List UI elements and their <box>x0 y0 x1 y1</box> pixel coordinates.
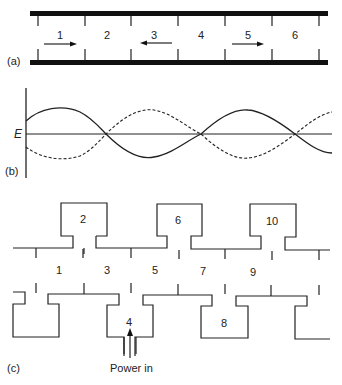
top-conductor-bar <box>30 11 328 16</box>
panel-b: E (b) <box>5 88 332 178</box>
panel-a: 1 2 3 4 5 6 (a) <box>7 11 328 67</box>
panel-label-c: (c) <box>7 362 20 374</box>
cell-label-1: 1 <box>57 29 63 41</box>
panel-label-a: (a) <box>7 55 20 67</box>
gap-label-9: 9 <box>250 266 256 278</box>
cell-dividers <box>38 16 319 60</box>
cell-label-3: 3 <box>151 29 157 41</box>
upper-gap-stubs <box>36 248 319 260</box>
cavity-label-8: 8 <box>221 317 227 329</box>
cavity-label-4: 4 <box>126 316 132 328</box>
power-in-arrow-icon <box>127 328 133 358</box>
gap-label-5: 5 <box>152 264 158 276</box>
cell-label-5: 5 <box>245 29 251 41</box>
solid-wave-curve <box>26 108 332 158</box>
cell-label-2: 2 <box>104 29 110 41</box>
lower-cavity-left <box>13 292 124 356</box>
arrow-right-icon <box>232 42 264 47</box>
bottom-conductor-bar <box>30 60 328 65</box>
panel-label-b: (b) <box>5 165 18 177</box>
gap-label-3: 3 <box>104 264 110 276</box>
cavity-4-right-wall <box>135 295 330 356</box>
cavity-label-6: 6 <box>175 214 181 226</box>
gap-label-1: 1 <box>56 264 62 276</box>
gap-label-7: 7 <box>200 265 206 277</box>
power-in-label: Power in <box>110 362 153 374</box>
cavity-label-2: 2 <box>80 213 86 225</box>
gap-marks-upper <box>83 249 272 260</box>
cell-label-4: 4 <box>198 29 204 41</box>
axis-label-e: E <box>14 127 23 141</box>
cavity-2-right-wall <box>96 204 330 250</box>
cavity-label-10: 10 <box>266 215 278 227</box>
panel-c <box>13 203 330 358</box>
upper-wall-left <box>13 203 107 248</box>
arrow-left-icon <box>140 41 172 46</box>
arrow-right-icon <box>44 42 77 47</box>
cell-label-6: 6 <box>292 29 298 41</box>
figure-canvas: 1 2 3 4 5 6 (a) E (b) <box>0 0 342 385</box>
